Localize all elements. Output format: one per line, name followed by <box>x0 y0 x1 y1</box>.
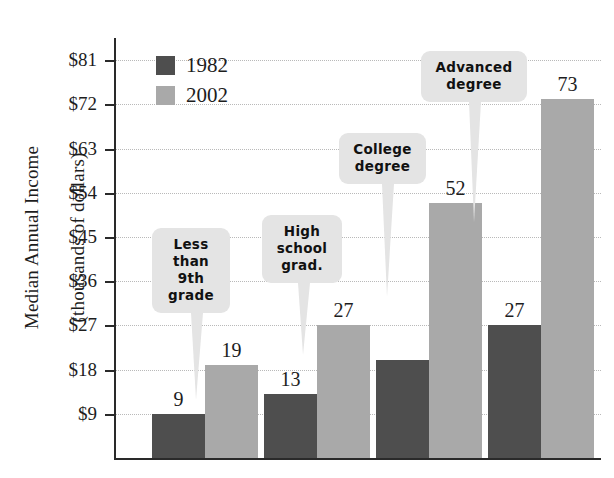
tick-mark <box>105 60 116 62</box>
legend-item-2002: 2002 <box>156 80 228 110</box>
bar-value-label: 27 <box>478 300 551 320</box>
tick-mark <box>105 325 116 327</box>
callout-label: High school grad. <box>262 215 342 283</box>
callout-advanced-degree: Advanced degree <box>421 51 527 102</box>
legend-swatch-2002-icon <box>156 86 175 105</box>
tick-mark <box>105 370 116 372</box>
tick-mark <box>105 281 116 283</box>
y-tick-label: $36 <box>13 271 97 290</box>
y-tick-label: $63 <box>13 139 97 158</box>
y-tick-label: $54 <box>13 183 97 202</box>
x-axis-line <box>114 458 601 460</box>
tick-mark <box>105 237 116 239</box>
y-tick-label: $81 <box>13 50 97 69</box>
legend-swatch-1982-icon <box>156 56 175 75</box>
tick-mark <box>105 104 116 106</box>
callout-high-school-grad: High school grad. <box>262 215 342 283</box>
callout-label: Advanced degree <box>421 51 527 102</box>
bar-value-label: 13 <box>254 369 327 389</box>
legend-item-1982: 1982 <box>156 50 228 80</box>
callout-college-degree: College degree <box>339 133 426 184</box>
bar-2002-advanced-degree <box>541 99 594 458</box>
y-tick-label: $45 <box>13 227 97 246</box>
bar-2002-college-degree <box>429 203 482 458</box>
legend-label-1982: 1982 <box>186 55 228 76</box>
tick-mark <box>105 193 116 195</box>
y-tick-label: $18 <box>13 360 97 379</box>
y-tick-label: $9 <box>13 404 97 423</box>
legend: 1982 2002 <box>156 50 228 110</box>
y-tick-label: $72 <box>13 94 97 113</box>
callout-label: Less than 9th grade <box>152 228 230 313</box>
callout-pointer <box>262 283 342 355</box>
callout-label: College degree <box>339 133 426 184</box>
bar-1982-advanced-degree <box>488 325 541 458</box>
y-tick-label: $27 <box>13 315 97 334</box>
bar-chart: Median Annual Income (thousands of dolla… <box>0 0 614 478</box>
bar-1982-college-degree <box>376 360 429 458</box>
callout-less-than-9th-grade: Less than 9th grade <box>152 228 230 313</box>
bar-1982-high-school-grad <box>264 394 317 458</box>
y-axis-line <box>114 38 116 460</box>
callout-pointer <box>339 184 426 297</box>
callout-pointer <box>152 313 230 400</box>
bar-value-label: 73 <box>531 74 604 94</box>
tick-mark <box>105 414 116 416</box>
legend-label-2002: 2002 <box>186 85 228 106</box>
callout-pointer <box>421 102 527 222</box>
bar-1982-less-than-9th-grade <box>152 414 205 458</box>
tick-mark <box>105 149 116 151</box>
